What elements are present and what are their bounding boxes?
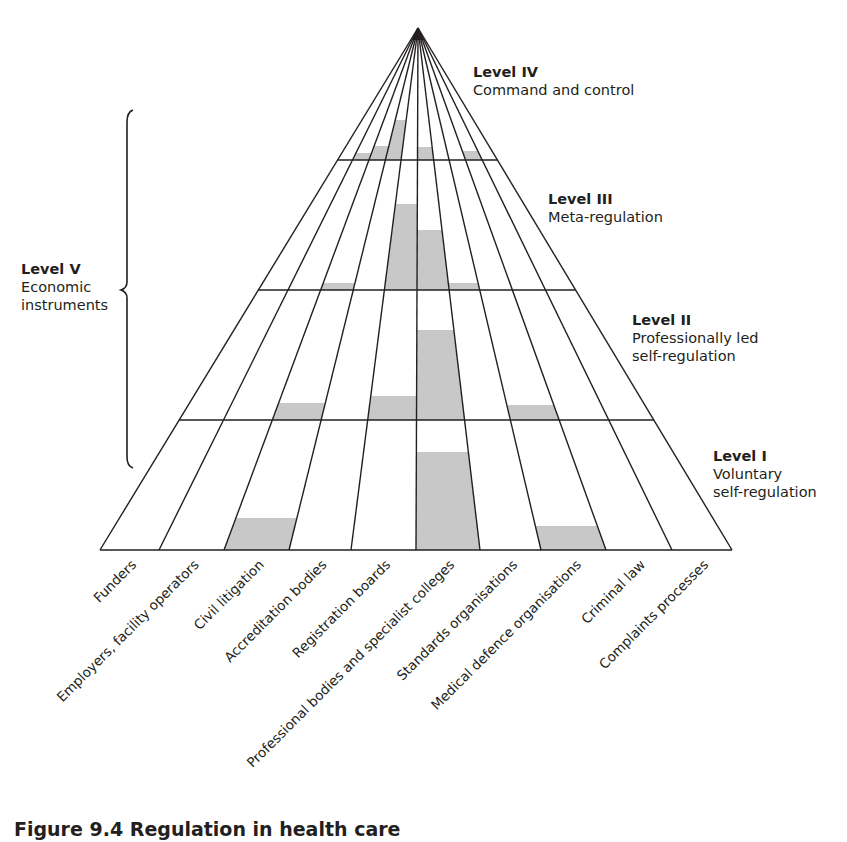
- shaded-region: [321, 283, 355, 290]
- level-ii-desc-line2: self-regulation: [632, 347, 759, 365]
- shaded-region: [224, 518, 297, 550]
- level-ii-title: Level II: [632, 311, 759, 329]
- column-divider-line: [100, 28, 418, 550]
- level-iii-title: Level III: [548, 190, 663, 208]
- regulation-pyramid: [0, 0, 847, 842]
- level-iv-title: Level IV: [473, 63, 634, 81]
- shaded-region: [417, 230, 449, 290]
- figure-caption: Figure 9.4 Regulation in health care: [14, 818, 401, 840]
- level-v-bracket-icon: [121, 110, 133, 468]
- level-i-label: Level I Voluntary self-regulation: [713, 447, 817, 501]
- level-i-desc-line1: Voluntary: [713, 465, 817, 483]
- level-v-desc-line2: instruments: [21, 296, 108, 314]
- column-divider-line: [159, 28, 418, 550]
- level-iv-desc: Command and control: [473, 81, 634, 99]
- shaded-region: [507, 405, 559, 420]
- level-v-title: Level V: [21, 260, 108, 278]
- shaded-region: [272, 403, 325, 420]
- level-v-label: Level V Economic instruments: [21, 260, 108, 314]
- shaded-region: [416, 330, 464, 420]
- shaded-region: [368, 396, 417, 420]
- shaded-region: [417, 147, 433, 160]
- level-iii-label: Level III Meta-regulation: [548, 190, 663, 226]
- regulation-pyramid-figure: Level IV Command and control Level III M…: [0, 0, 847, 842]
- level-iii-desc: Meta-regulation: [548, 208, 663, 226]
- level-v-desc-line1: Economic: [21, 278, 108, 296]
- level-ii-desc-line1: Professionally led: [632, 329, 759, 347]
- level-ii-label: Level II Professionally led self-regulat…: [632, 311, 759, 365]
- level-i-desc-line2: self-regulation: [713, 483, 817, 501]
- level-iv-label: Level IV Command and control: [473, 63, 634, 99]
- shaded-region: [448, 283, 479, 290]
- level-i-title: Level I: [713, 447, 817, 465]
- shaded-region: [535, 526, 606, 550]
- shaded-regions: [224, 120, 606, 550]
